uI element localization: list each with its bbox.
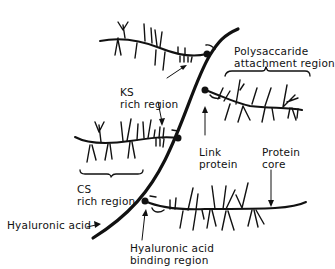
ks-rich-region-label: KS rich region	[120, 86, 178, 110]
cs-region-bracket	[80, 170, 143, 177]
label-line: Hyaluronic acid	[130, 242, 214, 254]
cs-rich-region-label: CS rich region	[77, 183, 135, 207]
label-line: protein	[199, 158, 238, 170]
hyaluronic-acid-label: Hyaluronic acid	[7, 219, 91, 231]
label-line: Polysaccaride	[234, 45, 335, 57]
proteoglycan-monomer-right	[202, 80, 303, 122]
label-line: binding region	[130, 254, 214, 266]
protein-core-label: Protein core	[262, 146, 300, 170]
proteoglycan-monomer-bottom	[142, 183, 307, 230]
label-line: core	[262, 158, 300, 170]
link-protein-label: Link protein	[199, 146, 238, 170]
annotation-arrows	[87, 65, 274, 240]
label-line: Link	[199, 146, 238, 158]
label-line: rich region	[77, 195, 135, 207]
label-line: attachment region	[234, 57, 335, 69]
label-line: Protein	[262, 146, 300, 158]
label-line: rich region	[120, 98, 178, 110]
hyaluronic-acid-binding-label: Hyaluronic acid binding region	[130, 242, 214, 266]
label-line: CS	[77, 183, 135, 195]
label-line: KS	[120, 86, 178, 98]
polysaccharide-attachment-label: Polysaccaride attachment region	[234, 45, 335, 69]
proteoglycan-monomer-top	[100, 22, 215, 70]
